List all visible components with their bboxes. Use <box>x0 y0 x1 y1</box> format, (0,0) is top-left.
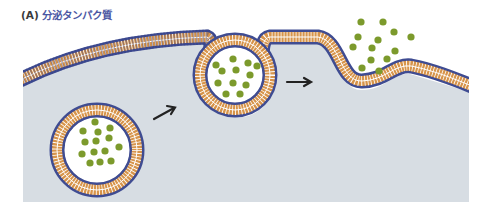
secretion-diagram <box>0 0 488 213</box>
fusing-vesicle <box>200 40 270 110</box>
secretory-vesicle <box>57 110 137 190</box>
